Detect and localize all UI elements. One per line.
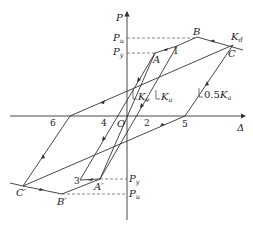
unload-line-1-2 <box>100 46 177 179</box>
point-c-prime-label: C′ <box>16 187 27 198</box>
origin-label: O <box>117 118 125 129</box>
ke-label: Ke <box>137 91 149 104</box>
py-neg-label: Py <box>128 173 140 186</box>
point-5-label: 5 <box>182 119 188 129</box>
ka-label: Ka <box>160 91 172 104</box>
y-axis-label: P <box>115 12 123 23</box>
point-b-prime-label: B′ <box>56 196 67 207</box>
point-b-label: B <box>192 26 200 37</box>
hysteresis-diagram: P Δ O Pu Py Py Pu A B C A′ B′ C′ 1 2 3 4… <box>0 0 253 230</box>
pu-neg-label: Pu <box>128 188 140 201</box>
point-2-label: 2 <box>144 118 150 128</box>
pu-pos-label: Pu <box>112 32 124 45</box>
point-1-label: 1 <box>173 46 179 56</box>
half-ka-label: 0.5Ka <box>204 89 231 102</box>
x-axis-label: Δ <box>236 122 244 133</box>
diagram-canvas: P Δ O Pu Py Py Pu A B C A′ B′ C′ 1 2 3 4… <box>0 0 253 230</box>
point-6-label: 6 <box>50 118 56 128</box>
arrow-b-c <box>210 40 215 43</box>
point-3-label: 3 <box>74 176 80 186</box>
point-a-label: A <box>152 54 160 65</box>
reload-line-3-4 <box>80 53 155 180</box>
arrow-6-c <box>100 100 105 104</box>
kd-label: Kd <box>230 31 243 44</box>
ka-triangle <box>156 90 160 99</box>
point-c-label: C <box>228 48 236 59</box>
point-a-prime-label: A′ <box>93 181 104 192</box>
point-4-label: 4 <box>101 118 107 128</box>
py-pos-label: Py <box>112 46 124 59</box>
